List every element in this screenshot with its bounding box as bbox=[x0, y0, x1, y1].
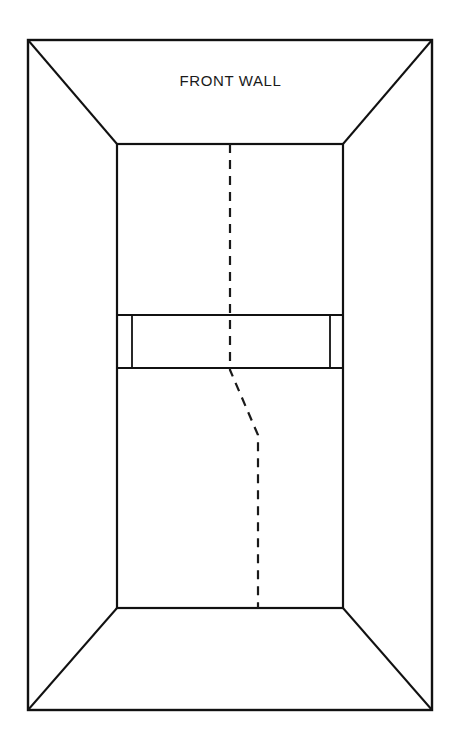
outer-frame-rect bbox=[28, 40, 432, 710]
room-perspective-diagram: FRONT WALL bbox=[0, 0, 461, 748]
front-wall-label: FRONT WALL bbox=[0, 72, 461, 89]
corner-diagonal-top-left bbox=[28, 40, 117, 144]
corner-diagonal-bottom-left bbox=[28, 608, 117, 710]
room-diagram-svg bbox=[0, 0, 461, 748]
dashed-crack-path bbox=[230, 144, 258, 608]
corner-diagonal-bottom-right bbox=[343, 608, 432, 710]
corner-diagonal-top-right bbox=[343, 40, 432, 144]
